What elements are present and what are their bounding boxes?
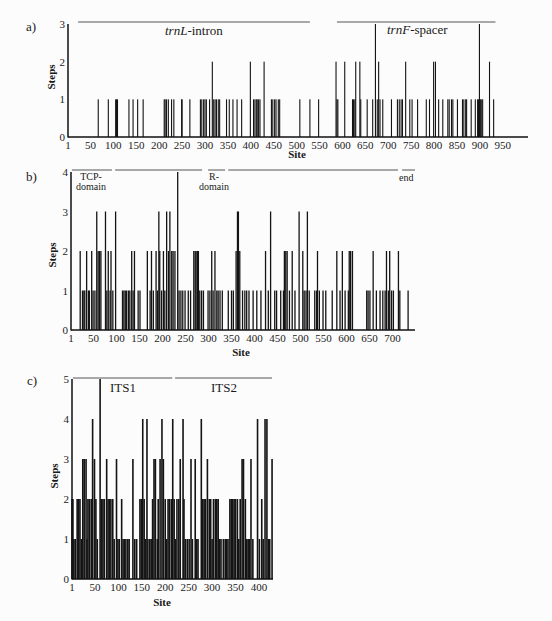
- x-tick-label: 350: [220, 139, 237, 151]
- bar: [199, 291, 200, 331]
- bar: [179, 459, 181, 579]
- bar: [201, 99, 202, 137]
- bar: [192, 539, 194, 579]
- bar: [238, 539, 240, 579]
- x-tick-label: 600: [334, 139, 351, 151]
- bar: [211, 539, 213, 579]
- bar: [178, 291, 179, 331]
- x-tick-label: 350: [223, 332, 240, 344]
- bar: [286, 251, 287, 330]
- bar: [109, 499, 111, 579]
- bar: [426, 99, 427, 137]
- x-tick-label: 100: [108, 332, 125, 344]
- y-tick-label: 4: [63, 166, 69, 178]
- bar: [449, 99, 450, 137]
- x-tick-label: 650: [357, 139, 374, 151]
- bar: [232, 499, 234, 579]
- bar: [260, 291, 261, 331]
- bar: [117, 539, 119, 579]
- x-axis-title-b: Site: [232, 347, 250, 358]
- bar: [124, 539, 126, 579]
- x-tick-label: 50: [85, 139, 97, 151]
- bar: [259, 99, 260, 137]
- bar: [268, 539, 270, 579]
- bar: [399, 99, 400, 137]
- bar: [412, 99, 413, 137]
- bar: [339, 291, 340, 331]
- bar: [220, 539, 222, 579]
- bar: [401, 99, 402, 137]
- bar: [172, 251, 173, 330]
- bar: [238, 212, 239, 331]
- bar: [239, 499, 241, 579]
- bar: [147, 539, 149, 579]
- bar: [125, 291, 126, 331]
- bar: [482, 99, 483, 137]
- bar: [99, 379, 101, 579]
- x-axis-title-a: Site: [288, 149, 306, 160]
- bar: [417, 99, 418, 137]
- bar: [378, 62, 379, 137]
- bar: [376, 291, 377, 331]
- bar: [241, 459, 243, 579]
- bar: [493, 99, 494, 137]
- bar: [325, 291, 326, 331]
- bar: [190, 291, 191, 331]
- bar: [80, 251, 81, 330]
- bar: [175, 539, 177, 579]
- bar: [209, 99, 210, 137]
- bar: [139, 291, 140, 331]
- bar: [169, 499, 171, 579]
- bar: [212, 291, 213, 331]
- x-tick-label: 200: [157, 581, 174, 593]
- bar: [79, 499, 81, 579]
- bar: [213, 99, 214, 137]
- bar: [372, 251, 373, 330]
- bar: [304, 291, 305, 331]
- x-tick-label: 950: [495, 139, 512, 151]
- bar: [193, 251, 194, 330]
- bar: [223, 539, 225, 579]
- bar: [211, 251, 212, 330]
- bar: [215, 99, 216, 137]
- bar: [82, 291, 83, 331]
- bar: [275, 99, 276, 137]
- bar: [332, 291, 333, 331]
- bar: [123, 291, 124, 331]
- bar: [203, 291, 204, 331]
- bar: [319, 291, 320, 331]
- bar: [131, 251, 132, 330]
- bar: [246, 539, 248, 579]
- bar: [215, 499, 217, 579]
- bar: [141, 499, 143, 579]
- bar: [96, 212, 97, 331]
- bar: [269, 539, 271, 579]
- bar: [112, 291, 113, 331]
- bar: [203, 99, 204, 137]
- bar: [84, 291, 85, 331]
- bar: [235, 251, 236, 330]
- bar: [153, 291, 154, 331]
- bar: [197, 539, 199, 579]
- bar: [294, 291, 295, 331]
- y-tick-label: 2: [63, 245, 69, 257]
- bar: [462, 99, 463, 137]
- bar: [391, 99, 392, 137]
- x-tick-label: 300: [197, 139, 214, 151]
- bar: [139, 499, 141, 579]
- bar: [134, 539, 136, 579]
- bar: [115, 212, 116, 331]
- bar: [250, 459, 252, 579]
- bar: [204, 99, 205, 137]
- bar: [367, 99, 368, 137]
- bar: [433, 62, 434, 137]
- x-tick-label: 400: [251, 581, 268, 593]
- bar: [268, 291, 269, 331]
- x-tick-label: 50: [89, 581, 101, 593]
- bar: [194, 459, 196, 579]
- bar: [117, 99, 118, 137]
- bar: [219, 99, 220, 137]
- bar: [229, 499, 231, 579]
- bar: [106, 291, 107, 331]
- bar: [202, 499, 204, 579]
